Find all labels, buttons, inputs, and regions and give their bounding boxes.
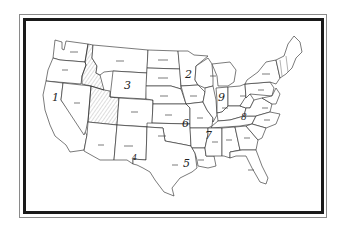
state-new-england bbox=[276, 36, 302, 78]
state-new-york bbox=[245, 60, 280, 84]
state-montana bbox=[92, 45, 148, 75]
state-florida bbox=[230, 150, 268, 184]
region-number-2: 2 bbox=[184, 68, 192, 81]
state-washington bbox=[53, 40, 88, 62]
region-number-6: 6 bbox=[182, 117, 189, 130]
region-number-9: 9 bbox=[218, 91, 225, 104]
us-map: 1 2 3 4 5 6 7 8 9 bbox=[0, 0, 345, 231]
state-north-dakota bbox=[147, 50, 180, 69]
region-number-4: 4 bbox=[131, 153, 137, 162]
state-michigan bbox=[212, 62, 236, 86]
region-number-8: 8 bbox=[241, 112, 247, 122]
state-arizona bbox=[84, 122, 117, 160]
state-oregon bbox=[46, 58, 86, 84]
region-number-1: 1 bbox=[52, 91, 59, 104]
state-colorado bbox=[117, 98, 153, 127]
state-new-mexico bbox=[114, 125, 147, 164]
region-number-7: 7 bbox=[205, 129, 212, 142]
region-number-3: 3 bbox=[124, 79, 131, 92]
region-number-5: 5 bbox=[183, 157, 190, 170]
